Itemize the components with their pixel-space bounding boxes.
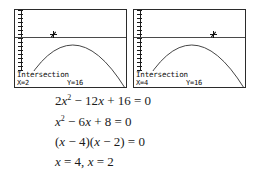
calculator-screens-row: Intersection X=2 Y=16 Intersection X=4 Y… (14, 9, 246, 88)
eq1-tail: + 16 = 0 (104, 93, 151, 108)
intersection-cursor (50, 31, 57, 38)
right-x-value: X=4 (136, 79, 148, 87)
right-y-value: Y=16 (186, 79, 202, 87)
solution-steps: 2x2 − 12x + 16 = 0 x2 − 6x + 8 = 0 (x − … (0, 90, 254, 172)
left-status-label: Intersection (17, 71, 69, 79)
left-x-value: X=2 (17, 79, 29, 87)
eq2-middle: − 6 (65, 114, 85, 129)
left-calculator-screen: Intersection X=2 Y=16 (14, 9, 127, 88)
eq4-tail: = 2 (93, 154, 113, 169)
equation-line-3: (x − 4)(x − 2) = 0 (0, 132, 254, 152)
right-status-values: X=4 Y=16 (136, 79, 202, 87)
intersection-cursor (210, 31, 217, 38)
equation-line-1: 2x2 − 12x + 16 = 0 (0, 90, 254, 111)
cursor-slash-icon (211, 31, 216, 37)
left-y-value: Y=16 (67, 79, 83, 87)
eq3-middle: − 4)( (65, 134, 94, 149)
eq1-middle: − 12 (71, 93, 98, 108)
cursor-slash-icon (51, 31, 56, 37)
right-status-label: Intersection (136, 71, 188, 79)
equation-line-2: x2 − 6x + 8 = 0 (0, 111, 254, 132)
eq3-tail: − 2) = 0 (100, 134, 145, 149)
eq4-middle: = 4, (61, 154, 88, 169)
right-calculator-screen: Intersection X=4 Y=16 (133, 9, 246, 88)
left-status-values: X=2 Y=16 (17, 79, 83, 87)
equation-line-4: x = 4, x = 2 (0, 152, 254, 172)
eq2-tail: + 8 = 0 (91, 114, 132, 129)
